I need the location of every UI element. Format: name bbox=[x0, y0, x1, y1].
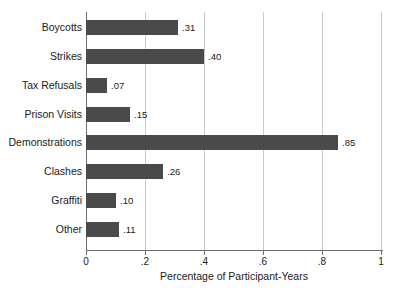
gridline-0-2 bbox=[145, 12, 146, 250]
category-label-tax-refusals: Tax Refusals bbox=[0, 79, 82, 92]
category-label-other: Other bbox=[0, 223, 82, 236]
bar-prison-visits bbox=[86, 107, 130, 122]
bar-demonstrations bbox=[86, 135, 338, 150]
x-tick-label-5: 1 bbox=[366, 256, 396, 268]
bar-value-graffiti: .10 bbox=[120, 194, 133, 207]
bar-value-demonstrations: .85 bbox=[342, 136, 355, 149]
bar-value-other: .11 bbox=[123, 223, 136, 236]
category-label-strikes: Strikes bbox=[0, 50, 82, 63]
bar-tax-refusals bbox=[86, 78, 107, 93]
gridline-1 bbox=[381, 12, 382, 250]
bar-row: .10 bbox=[86, 193, 382, 208]
x-tick-mark-0 bbox=[86, 251, 87, 255]
category-label-demonstrations: Demonstrations bbox=[0, 136, 82, 149]
bar-value-clashes: .26 bbox=[167, 165, 180, 178]
bar-strikes bbox=[86, 49, 204, 64]
bar-row: .07 bbox=[86, 78, 382, 93]
bar-row: .11 bbox=[86, 222, 382, 237]
x-tick-label-4: .8 bbox=[307, 256, 337, 268]
bar-other bbox=[86, 222, 119, 237]
bar-row: .31 bbox=[86, 20, 382, 35]
category-label-clashes: Clashes bbox=[0, 165, 82, 178]
x-tick-label-0: 0 bbox=[71, 256, 101, 268]
x-axis-line bbox=[86, 250, 383, 251]
x-tick-mark-2 bbox=[204, 251, 205, 255]
bar-boycotts bbox=[86, 20, 178, 35]
y-axis-line bbox=[86, 12, 87, 251]
gridline-0-8 bbox=[322, 12, 323, 250]
bar-chart: 0 .2 .4 .6 .8 1 Boycotts Strikes Tax Ref… bbox=[0, 0, 405, 290]
bar-value-boycotts: .31 bbox=[182, 21, 195, 34]
category-label-graffiti: Graffiti bbox=[0, 194, 82, 207]
bar-graffiti bbox=[86, 193, 116, 208]
bar-value-tax-refusals: .07 bbox=[111, 79, 124, 92]
bar-value-strikes: .40 bbox=[208, 50, 221, 63]
bar-row: .26 bbox=[86, 164, 382, 179]
x-tick-label-2: .4 bbox=[189, 256, 219, 268]
gridline-0-6 bbox=[263, 12, 264, 250]
bar-row: .85 bbox=[86, 135, 382, 150]
bar-row: .15 bbox=[86, 107, 382, 122]
x-tick-mark-1 bbox=[145, 251, 146, 255]
x-tick-label-1: .2 bbox=[130, 256, 160, 268]
bar-row: .40 bbox=[86, 49, 382, 64]
bar-value-prison-visits: .15 bbox=[134, 108, 147, 121]
x-tick-mark-4 bbox=[322, 251, 323, 255]
x-axis-title: Percentage of Participant-Years bbox=[86, 270, 382, 283]
category-label-prison-visits: Prison Visits bbox=[0, 108, 82, 121]
x-tick-mark-3 bbox=[263, 251, 264, 255]
plot-area bbox=[86, 12, 382, 250]
gridline-0-4 bbox=[204, 12, 205, 250]
x-tick-mark-5 bbox=[381, 251, 382, 255]
x-tick-label-3: .6 bbox=[248, 256, 278, 268]
bar-clashes bbox=[86, 164, 163, 179]
category-label-boycotts: Boycotts bbox=[0, 21, 82, 34]
